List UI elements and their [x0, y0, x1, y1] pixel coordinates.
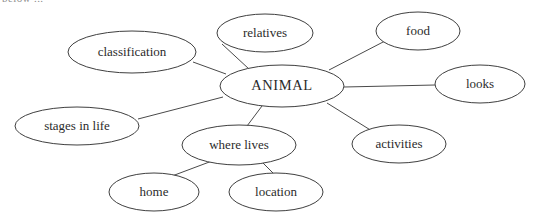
edge-wherelives-home [172, 161, 212, 176]
node-label-home: home [140, 184, 169, 199]
node-label-stages: stages in life [44, 118, 110, 133]
node-relatives[interactable]: relatives [217, 14, 313, 52]
node-label-food: food [406, 23, 430, 38]
edge-animal-stages [138, 97, 223, 119]
node-label-location: location [255, 184, 297, 199]
edge-animal-classification [193, 62, 226, 74]
node-stages[interactable]: stages in life [15, 107, 139, 145]
node-label-where_lives: where lives [209, 137, 269, 152]
node-label-relatives: relatives [243, 25, 287, 40]
node-label-animal: ANIMAL [251, 77, 313, 93]
node-home[interactable]: home [109, 173, 199, 211]
node-label-classification: classification [98, 44, 167, 59]
node-label-looks: looks [466, 76, 494, 91]
nodes-layer: ANIMALclassificationrelativesfoodlooksac… [15, 12, 525, 211]
edge-animal-activities [327, 103, 372, 131]
node-label-activities: activities [376, 136, 423, 151]
node-where_lives[interactable]: where lives [182, 125, 296, 165]
edge-wherelives-location [263, 163, 274, 174]
edge-animal-looks [344, 85, 435, 87]
node-food[interactable]: food [376, 12, 460, 50]
node-animal[interactable]: ANIMAL [220, 65, 344, 107]
mind-map-diagram: ANIMALclassificationrelativesfoodlooksac… [0, 0, 534, 221]
edge-animal-food [329, 41, 385, 70]
node-looks[interactable]: looks [435, 65, 525, 103]
node-classification[interactable]: classification [68, 31, 196, 73]
edge-animal-wherelives [247, 106, 262, 126]
node-location[interactable]: location [229, 173, 323, 211]
node-activities[interactable]: activities [352, 125, 446, 163]
